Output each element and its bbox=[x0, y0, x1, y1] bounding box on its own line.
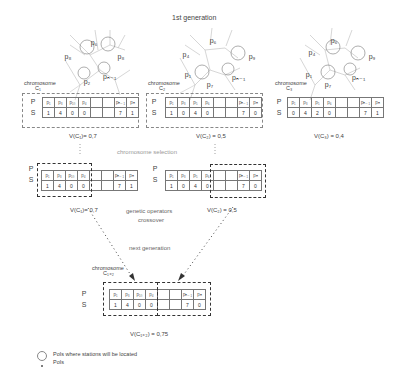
chromosome-selection-label: chromosome selection bbox=[117, 149, 177, 155]
gene-s: 2 bbox=[312, 108, 324, 118]
gene-s: 0 bbox=[288, 108, 300, 118]
row-label-s: S bbox=[27, 175, 35, 184]
next-generation-label: next generation bbox=[129, 245, 170, 251]
gene-s: 0 bbox=[324, 108, 336, 118]
gene-s: 0 bbox=[79, 108, 91, 118]
fitness-c1: V(C₁)= 0,7 bbox=[69, 133, 97, 139]
gene-s: 1 bbox=[166, 181, 178, 191]
chromosome-label-c3: chromosome C₃ bbox=[275, 81, 307, 91]
circle-icon bbox=[37, 351, 47, 361]
chromosome-c1-grid: p₁p₃p₁₀p₄pₙ₋₁pₙ 140071 bbox=[42, 97, 139, 118]
gene-p: p₁ bbox=[166, 98, 178, 108]
gene-p: pₙ bbox=[372, 98, 384, 108]
point-label: p₁ bbox=[305, 70, 313, 79]
point-label: p₆ bbox=[330, 36, 338, 45]
gene-p bbox=[103, 98, 115, 108]
row-label-p: P bbox=[151, 164, 159, 173]
point-label: p₇ bbox=[324, 80, 332, 89]
gene-s: 0 bbox=[178, 108, 190, 118]
legend-stations-label: PoIs where stations will be located bbox=[53, 351, 137, 357]
gene-s bbox=[214, 108, 226, 118]
gene-p bbox=[214, 98, 226, 108]
gene-p: p₁ bbox=[288, 98, 300, 108]
gene-s: 1 bbox=[43, 108, 55, 118]
chromosome-sub: C₁ bbox=[24, 86, 56, 91]
gene-p: p₁ bbox=[166, 171, 178, 181]
gene-s: 4 bbox=[190, 108, 202, 118]
title-first-generation: 1st generation bbox=[172, 14, 216, 21]
gene-p: p₅ bbox=[190, 98, 202, 108]
point-label: p₈ bbox=[64, 52, 72, 61]
point-label: p₄ bbox=[182, 50, 190, 59]
gene-p: p₃ bbox=[178, 98, 190, 108]
point-label: p₈ bbox=[117, 52, 125, 61]
gene-s: 4 bbox=[55, 108, 67, 118]
gene-s bbox=[102, 181, 114, 191]
gene-p: pₙ bbox=[250, 98, 262, 108]
crossover-segment-c2 bbox=[210, 164, 266, 198]
gene-s: 0 bbox=[202, 108, 214, 118]
row-label-p: P bbox=[29, 97, 37, 106]
gene-s: 1 bbox=[126, 181, 138, 191]
gene-p: pₙ₋₁ bbox=[115, 98, 127, 108]
gene-s: 7 bbox=[115, 108, 127, 118]
child-segment-1 bbox=[103, 282, 158, 316]
gene-s: 1 bbox=[372, 108, 384, 118]
gene-p: p₆ bbox=[202, 98, 214, 108]
gene-s bbox=[348, 108, 360, 118]
dot-icon bbox=[41, 365, 43, 367]
point-label: pₙ₋₁ bbox=[352, 73, 360, 82]
chromosome-label-c1: chromosome C₁ bbox=[24, 81, 56, 91]
gene-s bbox=[336, 108, 348, 118]
gene-s: 4 bbox=[190, 181, 202, 191]
gene-s bbox=[103, 108, 115, 118]
child-segment-2 bbox=[157, 282, 211, 316]
chromosome-label-c2: chromosome C₂ bbox=[148, 81, 180, 91]
point-label: p₉ bbox=[368, 52, 376, 61]
legend-pois-label: PoIs bbox=[53, 359, 64, 365]
point-label: pₙ₋₁ bbox=[232, 73, 240, 82]
chromosome-c3-grid: p₁p₃p₅p₆pₙ₋₁pₙ 042071 bbox=[287, 97, 384, 118]
point-label: p₁ bbox=[184, 70, 192, 79]
gene-p bbox=[226, 98, 238, 108]
point-label: p₂ bbox=[83, 77, 91, 86]
fitness-c3: V(C₃) = 0,4 bbox=[314, 133, 344, 139]
chromosome-c2-grid: p₁p₃p₅p₆pₙ₋₁pₙ 104070 bbox=[165, 97, 262, 118]
gene-p: p₃ bbox=[55, 98, 67, 108]
gene-s: 0 bbox=[178, 181, 190, 191]
point-label: p₇ bbox=[206, 80, 214, 89]
gene-p: pₙ bbox=[127, 98, 139, 108]
gene-p bbox=[336, 98, 348, 108]
gene-p bbox=[91, 98, 103, 108]
gene-s: 4 bbox=[300, 108, 312, 118]
row-label-p: P bbox=[80, 289, 88, 298]
gene-s bbox=[226, 108, 238, 118]
gene-s: 7 bbox=[238, 108, 250, 118]
row-label-p: P bbox=[27, 164, 35, 173]
crossover-segment-c1 bbox=[37, 163, 92, 197]
row-label-p: P bbox=[275, 97, 283, 106]
fitness-child: V(C₁₊₂) = 0,75 bbox=[130, 330, 168, 337]
genetic-operators-label: genetic operators bbox=[126, 208, 172, 214]
gene-p bbox=[102, 171, 114, 181]
fitness-selected-c2: V(C₂) = 0,5 bbox=[207, 207, 237, 213]
chromosome-sub: C₂ bbox=[148, 86, 180, 91]
point-label: p₉ bbox=[248, 52, 256, 61]
point-label: p₄ bbox=[308, 48, 316, 57]
gene-s: 1 bbox=[127, 108, 139, 118]
gene-p: pₙ₋₁ bbox=[360, 98, 372, 108]
row-label-p: P bbox=[150, 97, 158, 106]
crossover-label: crossover bbox=[138, 217, 164, 223]
row-label-s: S bbox=[150, 108, 158, 117]
point-label: pₙ₋₁ bbox=[103, 72, 111, 81]
row-label-s: S bbox=[151, 175, 159, 184]
gene-p: p₃ bbox=[178, 171, 190, 181]
row-label-s: S bbox=[29, 108, 37, 117]
gene-p: p₄ bbox=[79, 98, 91, 108]
gene-s: 0 bbox=[67, 108, 79, 118]
row-label-s: S bbox=[275, 108, 283, 117]
gene-s: 7 bbox=[360, 108, 372, 118]
gene-p: pₙ₋₁ bbox=[238, 98, 250, 108]
gene-p: p₅ bbox=[190, 171, 202, 181]
gene-p: p₆ bbox=[324, 98, 336, 108]
